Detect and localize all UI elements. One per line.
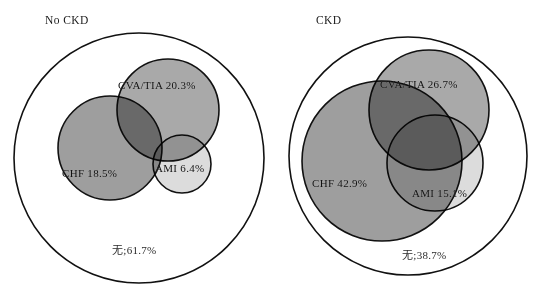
- set-label-ami-ckd: AMI 15.1%: [412, 187, 467, 199]
- set-label-cva-tia-ckd: CVA/TIA 26.7%: [380, 78, 458, 90]
- panel-no-ckd: No CKD CVA/TIA 20.3% CHF 18.5% AMI 6.4% …: [0, 0, 272, 290]
- venn-figure: No CKD CVA/TIA 20.3% CHF 18.5% AMI 6.4% …: [0, 0, 545, 290]
- set-label-cva-tia-no-ckd: CVA/TIA 20.3%: [118, 79, 196, 91]
- set-circle-chf-no-ckd: [58, 96, 162, 200]
- set-label-ami-no-ckd: AMI 6.4%: [155, 162, 204, 174]
- panel-ckd: CKD CVA/TIA 26.7% CHF 42.9% AMI 15.1% 无;…: [272, 0, 544, 290]
- set-label-chf-no-ckd: CHF 18.5%: [62, 167, 117, 179]
- set-label-chf-ckd: CHF 42.9%: [312, 177, 367, 189]
- none-label-no-ckd: 无;61.7%: [112, 241, 157, 257]
- none-label-ckd: 无;38.7%: [402, 246, 447, 262]
